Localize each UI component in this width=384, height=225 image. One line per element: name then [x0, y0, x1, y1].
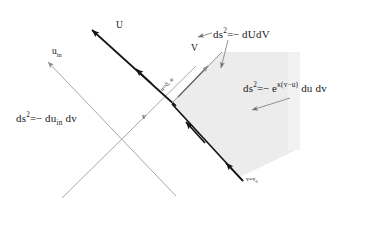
v0-boundary-label: v=v0 — [246, 176, 257, 184]
formula-right-schwarzschild-metric: ds2=− eκ(v−u) du dv — [243, 82, 327, 94]
formula-top-ds: ds — [213, 28, 223, 40]
v-direction-thin-line — [62, 66, 196, 198]
leader-v-label — [198, 33, 212, 37]
v0-label-sub: 0 — [255, 179, 257, 184]
formula-right-ds: ds — [243, 82, 253, 94]
formula-top-body: dUdV — [242, 28, 270, 40]
v-inner-label: v — [142, 113, 146, 121]
v0-label-main: v=v — [246, 176, 255, 182]
formula-left-flat-metric: ds2=− duin dv — [16, 112, 77, 127]
u-axis-line — [92, 30, 176, 106]
formula-right-minus: − — [263, 82, 269, 94]
diagram-canvas: U uin V v u=0, ∞ v=v0 ds2=− duin dv ds2=… — [0, 0, 384, 225]
v-axis-label: V — [191, 44, 198, 54]
formula-left-minus: − — [36, 112, 42, 124]
formula-left-dv: dv — [66, 112, 77, 124]
formula-right-tail: du dv — [301, 82, 327, 94]
u-in-axis-label-sub: in — [57, 51, 62, 58]
formula-top-minus: − — [233, 28, 239, 40]
formula-top-kruskal-metric: ds2=− dUdV — [213, 28, 270, 40]
u-in-axis-label: uin — [52, 47, 62, 58]
u-in-axis-line — [48, 62, 176, 196]
formula-right-argument: (v−u) — [281, 81, 298, 89]
formula-left-du-sub: in — [57, 119, 63, 127]
u-axis-mid-arrow — [136, 69, 152, 84]
shaded-region-fade — [288, 52, 300, 150]
formula-left-du: du — [45, 112, 56, 124]
u-axis-label: U — [116, 21, 123, 31]
formula-left-ds: ds — [16, 112, 26, 124]
